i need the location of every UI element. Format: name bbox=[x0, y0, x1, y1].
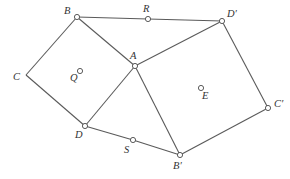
point-label-cp: C′ bbox=[274, 98, 284, 109]
point-label-s: S bbox=[124, 144, 130, 155]
point-marker-a bbox=[132, 63, 137, 68]
point-label-e: E bbox=[201, 90, 209, 101]
segment-d-a bbox=[85, 66, 135, 126]
point-label-dp: D′ bbox=[226, 8, 238, 19]
segment-a-dp bbox=[135, 21, 222, 66]
geometry-diagram: BRD′ACQEC′DSB′ bbox=[0, 0, 290, 179]
point-marker-q bbox=[77, 68, 82, 73]
point-marker-bp bbox=[177, 152, 182, 157]
segment-b-r bbox=[77, 17, 148, 19]
point-label-r: R bbox=[142, 3, 150, 14]
point-label-d: D bbox=[74, 129, 83, 140]
segment-r-dp bbox=[148, 19, 222, 21]
segment-d-s bbox=[85, 126, 133, 140]
point-label-q: Q bbox=[70, 72, 78, 83]
segments bbox=[26, 17, 268, 155]
point-label-c: C bbox=[13, 71, 21, 82]
segment-dp-cp bbox=[222, 21, 268, 108]
point-label-bp: B′ bbox=[173, 160, 182, 171]
point-marker-b bbox=[74, 14, 79, 19]
point-marker-r bbox=[145, 16, 150, 21]
segment-a-bp bbox=[135, 66, 180, 155]
point-label-b: B bbox=[64, 5, 71, 16]
segment-cp-bp bbox=[180, 108, 268, 155]
segment-b-a bbox=[77, 17, 135, 66]
point-marker-dp bbox=[219, 18, 224, 23]
segment-b-c bbox=[26, 17, 77, 75]
labels: BRD′ACQEC′DSB′ bbox=[13, 3, 284, 171]
point-label-a: A bbox=[129, 50, 137, 61]
point-marker-s bbox=[130, 137, 135, 142]
points bbox=[74, 14, 270, 157]
point-marker-cp bbox=[265, 105, 270, 110]
point-marker-d bbox=[82, 123, 87, 128]
